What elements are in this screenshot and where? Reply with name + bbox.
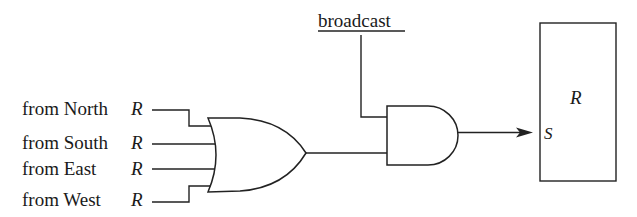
and-gate xyxy=(387,106,458,165)
register-port: S xyxy=(544,124,553,143)
input-east: from East R xyxy=(22,158,143,179)
logic-diagram: from North R from South R from East R fr… xyxy=(0,0,637,217)
input-signal: R xyxy=(130,158,143,179)
input-signal: R xyxy=(130,189,143,210)
input-label: from South xyxy=(22,132,109,153)
broadcast-label: broadcast xyxy=(318,10,392,31)
input-west: from West R xyxy=(22,189,143,210)
input-label: from West xyxy=(22,189,102,210)
wire-west xyxy=(152,186,213,202)
or-gate xyxy=(208,118,306,192)
input-label: from North xyxy=(22,98,109,119)
register-name: R xyxy=(569,87,582,108)
input-label: from East xyxy=(22,158,97,179)
input-signal: R xyxy=(130,98,143,119)
wire-north xyxy=(152,110,213,126)
input-north: from North R xyxy=(22,98,143,119)
wire-broadcast xyxy=(361,35,387,117)
input-signal: R xyxy=(130,132,143,153)
input-south: from South R xyxy=(22,132,143,153)
